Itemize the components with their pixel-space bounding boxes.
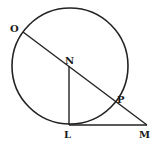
label-o: O xyxy=(10,23,19,34)
label-l: L xyxy=(64,129,71,140)
segment-om xyxy=(23,32,147,125)
label-n: N xyxy=(65,55,74,66)
label-p: P xyxy=(117,94,125,105)
label-m: M xyxy=(139,129,150,140)
geometry-diagram: O N P L M xyxy=(0,0,163,146)
circle xyxy=(12,8,128,124)
